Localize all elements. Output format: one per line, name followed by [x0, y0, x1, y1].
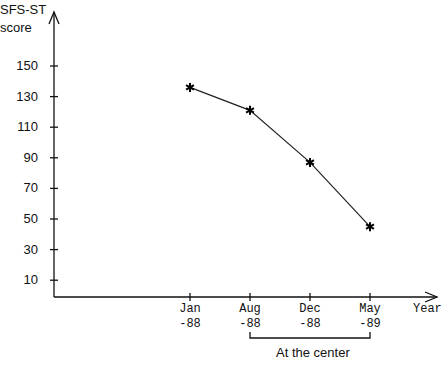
- asterisk-marker-icon: [186, 83, 194, 92]
- plot-area: [0, 0, 445, 365]
- series-line: [190, 87, 370, 226]
- at-the-center-bracket: [250, 332, 370, 338]
